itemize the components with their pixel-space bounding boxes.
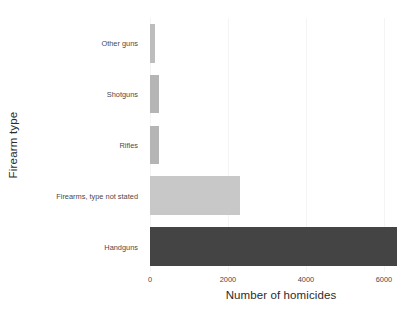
plot-area [150, 18, 412, 272]
bar [150, 24, 155, 63]
x-tick-label: 2000 [220, 275, 236, 284]
y-tick-label: Other guns [20, 39, 138, 48]
bar [150, 176, 240, 215]
y-axis-title-label: Firearm type [7, 112, 19, 179]
bar [150, 75, 159, 114]
y-tick-label: Rifles [20, 141, 138, 150]
y-tick-label: Handguns [20, 242, 138, 251]
y-tick-label: Firearms, type not stated [20, 191, 138, 200]
y-axis-tick-labels: Other gunsShotgunsRiflesFirearms, type n… [24, 18, 144, 272]
bar [150, 227, 397, 266]
y-tick-label: Shotguns [20, 90, 138, 99]
x-axis-tick-labels: 0200040006000 [150, 275, 412, 287]
x-tick-label: 4000 [298, 275, 314, 284]
x-tick-label: 6000 [376, 275, 392, 284]
bar [150, 126, 159, 165]
bar-chart: Firearm type Other gunsShotgunsRiflesFir… [0, 0, 417, 315]
x-axis-title: Number of homicides [150, 289, 412, 301]
x-tick-label: 0 [148, 275, 152, 284]
